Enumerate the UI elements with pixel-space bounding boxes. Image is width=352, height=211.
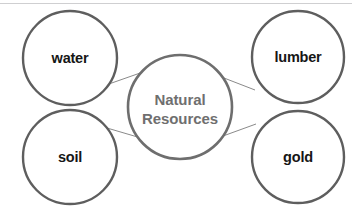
center-node-label-line1: Natural — [155, 91, 206, 108]
node-water[interactable]: water — [23, 11, 117, 105]
lumber-node-label: lumber — [274, 49, 322, 65]
node-lumber[interactable]: lumber — [252, 11, 344, 103]
node-gold[interactable]: gold — [252, 111, 344, 203]
soil-node-label: soil — [58, 149, 82, 165]
node-soil[interactable]: soil — [23, 110, 117, 204]
natural-resources-concept-map: water lumber soil gold Natural Resources — [0, 0, 352, 211]
water-node-label: water — [51, 50, 89, 66]
concept-map-graph: water lumber soil gold Natural Resources — [0, 0, 352, 211]
center-node-label-line2: Resources — [142, 110, 218, 127]
node-center-natural-resources[interactable]: Natural Resources — [128, 55, 232, 159]
gold-node-label: gold — [283, 149, 313, 165]
